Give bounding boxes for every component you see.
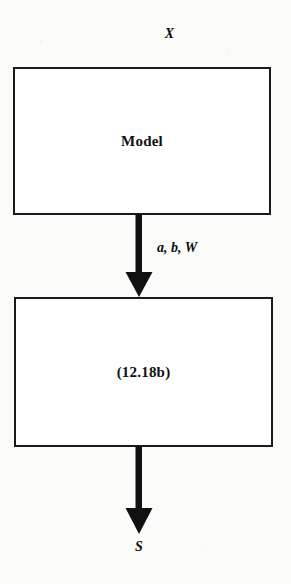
node-equation-label: (12.18b) xyxy=(117,364,171,381)
node-equation-box[interactable]: (12.18b) xyxy=(14,297,273,447)
node-model-label: Model xyxy=(121,133,163,150)
edge-label-parameters: a, b, W xyxy=(157,240,197,256)
arrow-model-to-equation xyxy=(124,214,154,298)
output-label-s: S xyxy=(0,539,291,555)
node-model-box[interactable]: Model xyxy=(13,67,271,215)
arrow-equation-to-output xyxy=(124,446,154,536)
diagram-canvas: X Model a, b, W (12.18b) S xyxy=(0,0,291,584)
input-label-x: X xyxy=(0,26,291,42)
